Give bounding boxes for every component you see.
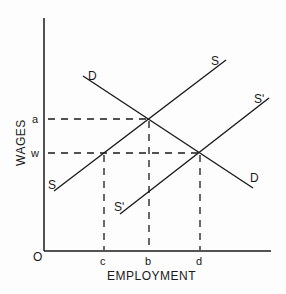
supply-label-start: S [48,178,56,192]
x-axis-title: EMPLOYMENT [107,269,196,283]
supply-shifted-label-start: Sʹ [114,200,124,214]
y-tick-a: a [32,113,39,125]
demand-curve [83,76,253,188]
x-tick-b: b [145,255,151,267]
demand-label-end: D [250,171,259,185]
x-tick-d: d [196,255,202,267]
supply-shifted-label-end: Sʹ [254,92,264,106]
demand-label-start: D [88,69,97,83]
supply-label-end: S [211,54,219,68]
y-tick-w: w [30,147,39,159]
x-tick-c: c [100,255,106,267]
y-axis-title: WAGES [14,119,28,166]
origin-label: O [33,250,42,264]
labor-market-diagram: D D S S Sʹ Sʹ a w c b d O EMPLOYMENT WAG… [0,0,286,294]
